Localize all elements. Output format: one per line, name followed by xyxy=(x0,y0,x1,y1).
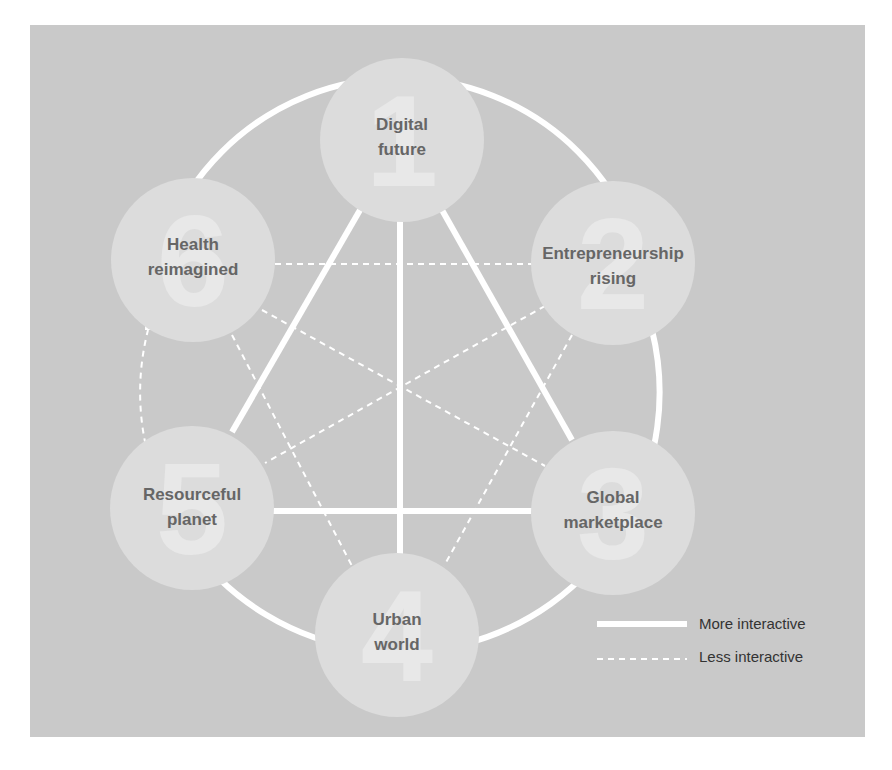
legend-less-label: Less interactive xyxy=(699,648,803,665)
node-entrepreneurship-rising: 2 Entrepreneurship rising xyxy=(531,181,695,345)
ring-arc-weak xyxy=(140,330,148,455)
node-resourceful-planet: 5 Resourceful planet xyxy=(110,426,274,590)
node-global-marketplace: 3 Global marketplace xyxy=(531,431,695,595)
node-label-line2: rising xyxy=(590,269,636,288)
node-numeral: 5 xyxy=(156,436,228,582)
node-label-line2: future xyxy=(378,140,426,159)
node-label-line2: marketplace xyxy=(563,513,662,532)
theme-interaction-diagram: 1 Digital future 2 Entrepreneurship risi… xyxy=(0,0,892,770)
strong-links xyxy=(232,210,572,555)
node-label-line1: Entrepreneurship xyxy=(542,244,684,263)
link-entrepreneurship-resourceful xyxy=(265,306,545,463)
node-health-reimagined: 6 Health reimagined xyxy=(111,178,275,342)
node-digital-future: 1 Digital future xyxy=(320,58,484,222)
node-numeral: 2 xyxy=(577,191,649,337)
node-label-line1: Urban xyxy=(372,610,421,629)
legend-more-label: More interactive xyxy=(699,615,806,632)
node-label-line2: planet xyxy=(167,510,217,529)
legend: More interactive Less interactive xyxy=(597,615,806,665)
link-health-global xyxy=(262,310,545,466)
node-label-line2: world xyxy=(373,635,419,654)
node-label-line1: Health xyxy=(167,235,219,254)
node-label-line1: Digital xyxy=(376,115,428,134)
node-urban-world: 4 Urban world xyxy=(315,553,479,717)
node-label-line1: Resourceful xyxy=(143,485,241,504)
node-label-line2: reimagined xyxy=(148,260,239,279)
node-label-line1: Global xyxy=(587,488,640,507)
